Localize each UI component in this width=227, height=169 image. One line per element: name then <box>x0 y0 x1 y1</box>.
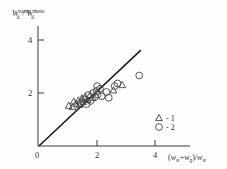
legend-triangle-icon <box>156 114 163 120</box>
data-point <box>94 83 101 90</box>
legend-label-2: - 2 <box>166 123 175 132</box>
legend-label-1: - 1 <box>166 114 175 123</box>
data-markers-layer <box>65 72 142 110</box>
x-tick-label-4: 4 <box>153 150 158 160</box>
y-axis-title-sub2: d <box>31 14 34 20</box>
data-point <box>114 80 121 87</box>
x-tick-label-0: 0 <box>35 150 39 160</box>
y-tick-label-4: 4 <box>28 35 33 45</box>
scatter-plot-figure: 2 4 0 2 4 Wcompd / Wmeasd (wst+wg)/wst - <box>0 0 227 169</box>
data-point <box>105 94 112 101</box>
x-axis-title: (wst+wg)/wst <box>168 153 207 163</box>
data-point <box>136 72 143 79</box>
legend-circle-icon <box>156 124 163 131</box>
x-axis-tick-labels: 0 2 4 <box>35 150 158 160</box>
y-axis-title-sub1: d <box>17 14 20 20</box>
y-axis-tick-labels: 2 4 <box>28 35 33 98</box>
y-tick-label-2: 2 <box>28 88 32 98</box>
y-axis-title-sup2: meas <box>33 8 44 14</box>
x-axis-ticks <box>97 140 155 146</box>
legend: - 1 - 2 <box>156 114 175 132</box>
plot-canvas: 2 4 0 2 4 Wcompd / Wmeasd (wst+wg)/wst - <box>0 0 227 169</box>
data-point <box>91 94 98 101</box>
series-2 <box>77 72 142 107</box>
x-tick-label-2: 2 <box>95 150 99 160</box>
x-axis-title-sub3: st <box>202 157 206 163</box>
data-point <box>119 81 126 87</box>
y-axis-title: Wcompd / Wmeasd <box>12 8 44 20</box>
y-axis-ticks <box>38 40 44 93</box>
